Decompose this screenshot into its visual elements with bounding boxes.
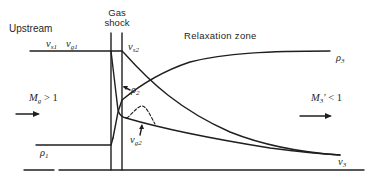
downstream-arrow-head-icon xyxy=(325,113,332,119)
rho1-sub: 1 xyxy=(45,152,49,160)
vs2-label: vs2 xyxy=(128,41,139,56)
vg2-pointer-head-icon xyxy=(139,124,144,129)
relaxation-zone-label: Relaxation zone xyxy=(184,30,257,41)
particle-velocity-curve xyxy=(122,51,340,155)
vg1-sub: g1 xyxy=(71,43,78,51)
mach-upstream-label: Mg > 1 xyxy=(29,92,58,107)
rho3-sub: 3 xyxy=(341,57,345,65)
vs1-sub: s1 xyxy=(51,43,57,51)
mach-downstream-rest: < 1 xyxy=(326,92,342,103)
gas-velocity-shock-drop xyxy=(111,51,126,118)
gas-shock-label: Gas shock xyxy=(103,8,131,28)
vg2-sub: g2 xyxy=(135,139,142,147)
v3-label: v3 xyxy=(338,156,346,171)
upstream-density-line xyxy=(36,138,113,145)
rho2-sub: 2 xyxy=(136,89,140,97)
v3-sub: 3 xyxy=(343,161,347,169)
mach-upstream-rest: > 1 xyxy=(41,92,57,103)
relaxation-zone-diagram xyxy=(0,0,371,177)
vg2-label: vg2 xyxy=(130,134,142,149)
vg1-label: vg1 xyxy=(66,38,78,53)
rho3-label: ρ3 xyxy=(336,52,345,67)
upstream-label: Upstream xyxy=(9,23,52,34)
dashed-velocity-bump xyxy=(127,106,155,124)
rho1-label: ρ1 xyxy=(40,147,49,162)
mach-downstream-label: M3′ < 1 xyxy=(311,92,342,107)
density-curve xyxy=(122,51,330,100)
gas-velocity-curve xyxy=(126,118,340,155)
rho2-label: ρ2 xyxy=(131,84,140,99)
vs2-sub: s2 xyxy=(133,46,139,54)
gas-shock-label-line2: shock xyxy=(103,18,131,28)
mach-downstream-base: M xyxy=(311,92,320,103)
upstream-arrow-head-icon xyxy=(33,111,40,117)
vs1-label: vs1 xyxy=(46,38,57,53)
mach-upstream-base: M xyxy=(29,92,38,103)
